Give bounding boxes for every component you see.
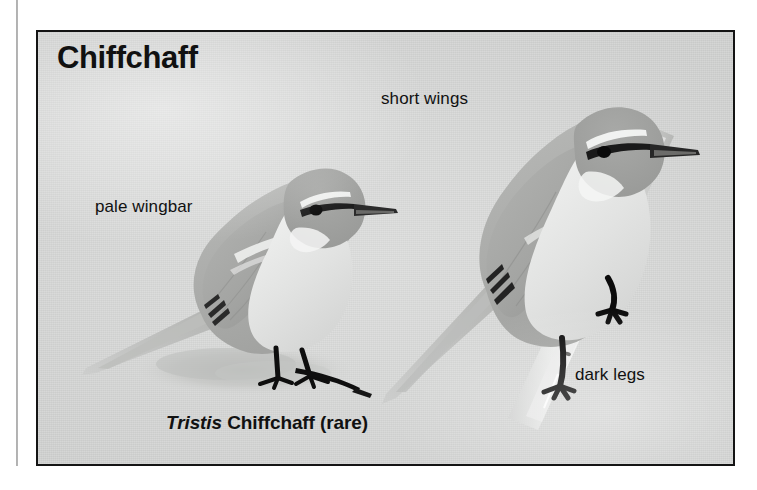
callout-label-dark-legs: dark legs [575,366,645,383]
eye-left [310,205,323,216]
eye-right [597,146,611,158]
illustration-plate: Chiffchaff pale wingbar short wings dark… [36,30,735,466]
figure-caption: Tristis Chiffchaff (rare) [166,413,368,432]
caption-common-name: Chiffchaff (rare) [222,412,368,433]
field-guide-plate-page: Chiffchaff pale wingbar short wings dark… [0,0,757,490]
callout-label-pale-wingbar: pale wingbar [95,198,193,215]
page-edge-line [16,0,18,466]
caption-scientific-name: Tristis [166,412,222,433]
bill-left [354,204,398,216]
bird-right-figure [382,107,700,430]
page-title: Chiffchaff [57,42,198,73]
callout-label-short-wings: short wings [381,90,468,107]
